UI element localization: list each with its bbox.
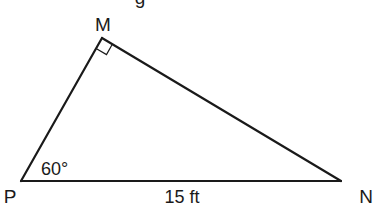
cut-off-caption-text: g (135, 0, 146, 8)
triangle-diagram: g M P N 60° 15 ft (0, 0, 377, 224)
side-pn-length-label: 15 ft (164, 187, 199, 207)
vertex-label-m: M (95, 14, 111, 35)
vertex-label-p: P (4, 186, 17, 207)
side-mn (102, 38, 341, 181)
angle-p-label: 60° (41, 159, 68, 179)
vertex-label-n: N (359, 186, 373, 207)
